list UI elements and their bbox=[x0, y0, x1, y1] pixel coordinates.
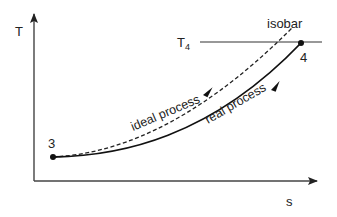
ideal-process-arrow-icon bbox=[202, 87, 216, 98]
point-3 bbox=[50, 154, 56, 160]
x-axis-label: s bbox=[286, 194, 293, 209]
y-axis-label: T bbox=[15, 24, 23, 39]
real-process-arrow-icon bbox=[269, 81, 283, 93]
real-process-label: real process bbox=[203, 80, 269, 126]
point-3-label: 3 bbox=[48, 136, 55, 151]
ts-diagram: T s T4 isobar 3 4 ideal process real pro… bbox=[0, 0, 337, 217]
ideal-process-label: ideal process bbox=[129, 92, 202, 134]
isobar-label: isobar bbox=[267, 16, 303, 31]
t4-label: T4 bbox=[177, 35, 190, 52]
point-4-label: 4 bbox=[300, 50, 307, 65]
point-4 bbox=[298, 40, 304, 46]
